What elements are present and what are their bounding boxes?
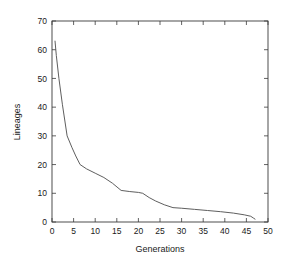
x-tick-label: 25: [155, 226, 165, 236]
y-axis-title: Lineages: [12, 103, 22, 140]
x-tick-label: 0: [50, 226, 55, 236]
x-tick-label: 10: [90, 226, 100, 236]
x-axis-title: Generations: [135, 244, 185, 254]
x-tick-label: 40: [220, 226, 230, 236]
y-tick-label: 60: [38, 45, 48, 55]
y-tick-label: 0: [42, 217, 47, 227]
x-tick-label: 45: [242, 226, 252, 236]
x-tick-label: 50: [263, 226, 273, 236]
y-tick-label: 30: [38, 131, 48, 141]
y-tick-label: 50: [38, 74, 48, 84]
x-tick-label: 35: [198, 226, 208, 236]
x-tick-label: 30: [177, 226, 187, 236]
y-tick-label: 10: [38, 188, 48, 198]
x-tick-label: 5: [71, 226, 76, 236]
x-tick-label: 20: [134, 226, 144, 236]
line-chart: 05101520253035404550010203040506070 Gene…: [0, 0, 288, 267]
y-tick-label: 40: [38, 102, 48, 112]
y-tick-label: 70: [38, 16, 48, 26]
x-tick-label: 15: [112, 226, 122, 236]
y-tick-label: 20: [38, 160, 48, 170]
